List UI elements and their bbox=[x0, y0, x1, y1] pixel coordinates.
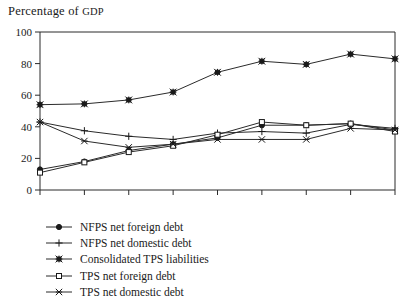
x-tick-label: 1980 bbox=[29, 199, 52, 202]
legend-item-4[interactable]: TPS net domestic debt bbox=[44, 284, 344, 300]
legend-label: TPS net domestic debt bbox=[74, 286, 184, 298]
series-polyline bbox=[40, 54, 395, 105]
data-point-open-square bbox=[259, 120, 264, 125]
data-point-open-square bbox=[348, 121, 353, 126]
legend-marker-open-square-icon bbox=[44, 269, 74, 283]
chart-legend: NFPS net foreign debtNFPS net domestic d… bbox=[44, 219, 344, 300]
series-consolidated-tps-liabilities bbox=[37, 51, 399, 108]
data-point-cross-x bbox=[81, 138, 87, 144]
legend-label: Consolidated TPS liabilities bbox=[74, 253, 209, 265]
data-point-open-square bbox=[304, 123, 309, 128]
legend-label: NFPS net domestic debt bbox=[74, 237, 192, 249]
x-tick-label: 1988 bbox=[384, 199, 407, 202]
data-point-cross-x bbox=[303, 136, 309, 142]
data-point-plus bbox=[55, 240, 62, 247]
data-point-cross-x bbox=[259, 136, 265, 142]
legend-marker-plus-icon bbox=[44, 236, 74, 250]
x-tick-label: 1981 bbox=[73, 199, 95, 202]
data-point-filled-asterisk bbox=[170, 89, 177, 96]
y-tick-label: 80 bbox=[21, 58, 33, 70]
y-tick-label: 20 bbox=[21, 152, 33, 164]
data-point-plus bbox=[258, 128, 265, 135]
data-point-filled-asterisk bbox=[392, 55, 399, 62]
legend-marker-filled-circle-icon bbox=[44, 220, 74, 234]
plot-area: 0204060801001980198119821983198419851986… bbox=[0, 22, 408, 202]
chart-title-main: Percentage of bbox=[8, 4, 82, 18]
data-point-filled-asterisk bbox=[125, 97, 132, 104]
data-point-cross-x bbox=[56, 289, 62, 295]
legend-marker-cross-x-icon bbox=[44, 285, 74, 299]
chart-title: Percentage of GDP bbox=[8, 4, 104, 19]
legend-label: TPS net foreign debt bbox=[74, 270, 176, 282]
chart-figure: Percentage of GDP 0204060801001980198119… bbox=[0, 0, 408, 305]
x-tick-label: 1983 bbox=[162, 199, 185, 202]
y-tick-label: 0 bbox=[27, 184, 33, 196]
y-tick-label: 40 bbox=[21, 121, 33, 133]
x-tick-label: 1985 bbox=[251, 199, 274, 202]
line-chart-svg: 0204060801001980198119821983198419851986… bbox=[0, 22, 408, 202]
legend-item-0[interactable]: NFPS net foreign debt bbox=[44, 219, 344, 235]
legend-item-3[interactable]: TPS net foreign debt bbox=[44, 268, 344, 284]
data-point-open-square bbox=[57, 273, 62, 278]
data-point-filled-asterisk bbox=[258, 58, 265, 65]
legend-item-2[interactable]: Consolidated TPS liabilities bbox=[44, 251, 344, 267]
data-point-open-square bbox=[82, 160, 87, 165]
x-tick-label: 1984 bbox=[207, 199, 230, 202]
series-tps-net-foreign-debt bbox=[38, 120, 398, 176]
data-point-filled-asterisk bbox=[214, 69, 221, 76]
data-point-filled-circle bbox=[56, 224, 61, 229]
y-tick-label: 100 bbox=[16, 26, 33, 38]
x-tick-label: 1986 bbox=[295, 199, 318, 202]
data-point-filled-asterisk bbox=[56, 256, 63, 263]
y-tick-label: 60 bbox=[21, 89, 33, 101]
data-point-plus bbox=[81, 127, 88, 134]
data-point-open-square bbox=[126, 150, 131, 155]
series-nfps-net-foreign-debt bbox=[37, 121, 397, 172]
data-point-filled-asterisk bbox=[37, 101, 44, 108]
x-tick-label: 1987 bbox=[340, 199, 363, 202]
tick-labels: 0204060801001980198119821983198419851986… bbox=[16, 26, 407, 202]
data-point-filled-asterisk bbox=[81, 100, 88, 107]
data-point-plus bbox=[303, 130, 310, 137]
chart-title-smallcaps: GDP bbox=[82, 6, 104, 17]
legend-marker-filled-asterisk-icon bbox=[44, 252, 74, 266]
x-tick-label: 1982 bbox=[118, 199, 140, 202]
series-layer bbox=[36, 51, 398, 175]
data-point-filled-asterisk bbox=[303, 61, 310, 68]
legend-label: NFPS net foreign debt bbox=[74, 221, 183, 233]
data-point-open-square bbox=[38, 170, 43, 175]
data-point-plus bbox=[125, 133, 132, 140]
data-point-filled-asterisk bbox=[347, 51, 354, 58]
data-point-open-square bbox=[215, 132, 220, 137]
legend-item-1[interactable]: NFPS net domestic debt bbox=[44, 235, 344, 251]
